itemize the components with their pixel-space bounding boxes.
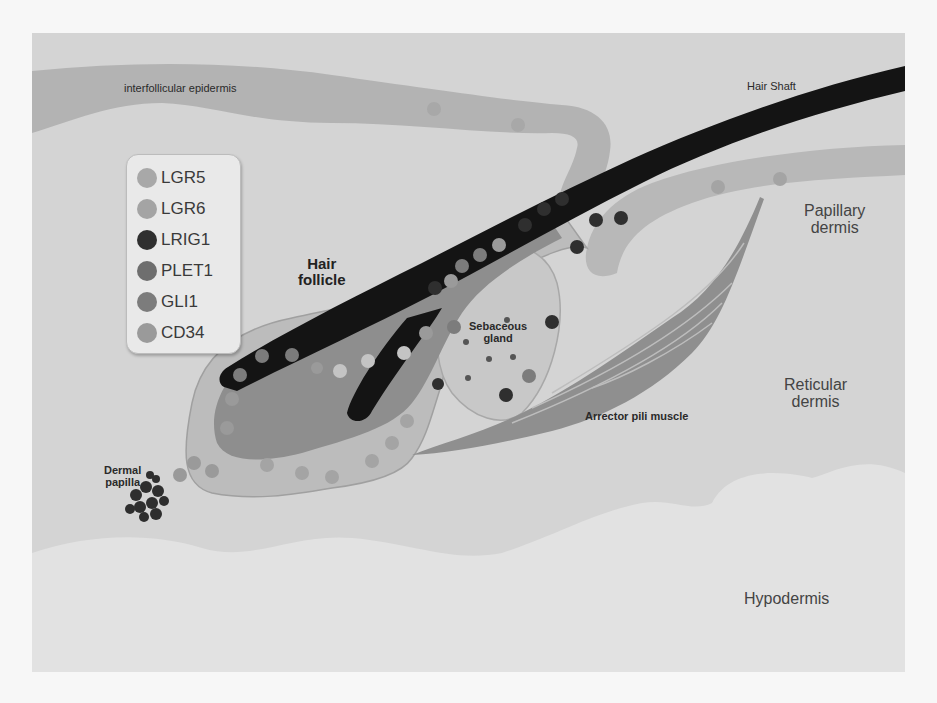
legend-swatch-icon — [137, 199, 157, 219]
legend-item-plet1: PLET1 — [137, 255, 240, 286]
label-reticular-line1: Reticular — [784, 376, 847, 393]
label-sebaceous-line2: gland — [483, 332, 512, 344]
marker-legend: LGR5 LGR6 LRIG1 PLET1 GLI1 CD34 — [126, 154, 241, 354]
label-dermal-papilla-line1: Dermal — [104, 464, 141, 476]
legend-label: LRIG1 — [161, 230, 210, 250]
interfollicular-epidermis — [32, 64, 611, 213]
label-hypodermis: Hypodermis — [744, 591, 829, 608]
label-interfollicular-epidermis: interfollicular epidermis — [124, 83, 237, 95]
legend-label: LGR6 — [161, 199, 205, 219]
label-sebaceous-line1: Sebaceous — [469, 320, 527, 332]
legend-item-gli1: GLI1 — [137, 286, 240, 317]
hair-follicle-diagram: interfollicular epidermis Hair Shaft Pap… — [32, 33, 905, 672]
label-papillary-dermis: Papillary dermis — [804, 203, 865, 237]
legend-swatch-icon — [137, 230, 157, 250]
label-arrector-pili-muscle: Arrector pili muscle — [585, 411, 688, 423]
label-sebaceous-gland: Sebaceous gland — [469, 321, 527, 344]
legend-label: GLI1 — [161, 292, 198, 312]
legend-swatch-icon — [137, 168, 157, 188]
legend-item-cd34: CD34 — [137, 317, 240, 348]
hypodermis-region — [32, 464, 905, 672]
label-hair-follicle-line1: Hair — [307, 255, 336, 272]
legend-label: CD34 — [161, 323, 204, 343]
label-papillary-line1: Papillary — [804, 202, 865, 219]
legend-item-lrig1: LRIG1 — [137, 224, 240, 255]
label-dermal-papilla: Dermal papilla — [104, 465, 141, 488]
legend-item-lgr6: LGR6 — [137, 193, 240, 224]
label-hair-shaft: Hair Shaft — [747, 81, 796, 93]
label-hair-follicle-line2: follicle — [298, 271, 346, 288]
legend-swatch-icon — [137, 292, 157, 312]
label-hair-follicle: Hair follicle — [298, 256, 346, 288]
label-reticular-dermis: Reticular dermis — [784, 377, 847, 411]
legend-label: PLET1 — [161, 261, 213, 281]
legend-swatch-icon — [137, 261, 157, 281]
label-dermal-papilla-line2: papilla — [105, 476, 140, 488]
label-reticular-line2: dermis — [792, 393, 840, 410]
legend-label: LGR5 — [161, 168, 205, 188]
legend-item-lgr5: LGR5 — [137, 162, 240, 193]
legend-swatch-icon — [137, 323, 157, 343]
label-papillary-line2: dermis — [811, 219, 859, 236]
